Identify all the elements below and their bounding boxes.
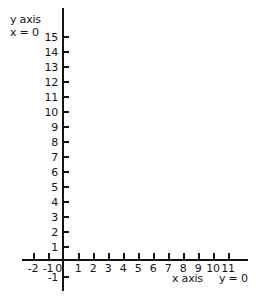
y-axis-tick xyxy=(64,156,69,158)
x-axis-label: x axis xyxy=(172,272,203,285)
x-axis-tick-label: 4 xyxy=(120,263,127,274)
y-axis-tick xyxy=(64,276,69,278)
x-axis-tick xyxy=(228,253,230,260)
y-axis-tick xyxy=(64,186,69,188)
x-axis-tick xyxy=(213,253,215,260)
y-axis-tick-label: 15 xyxy=(45,32,62,43)
x-axis-tick xyxy=(138,253,140,260)
y-axis-tick-label: 8 xyxy=(51,137,62,148)
y-axis-tick-label: 11 xyxy=(45,92,62,103)
y-axis-tick xyxy=(64,141,69,143)
x-axis-tick xyxy=(33,253,35,260)
y-axis-tick xyxy=(64,66,69,68)
y-axis-tick xyxy=(64,96,69,98)
y-axis-tick xyxy=(64,171,69,173)
y-axis-tick xyxy=(64,81,69,83)
x-axis-tick xyxy=(183,253,185,260)
x-axis-tick xyxy=(93,253,95,260)
x-axis-tick-label: 3 xyxy=(105,263,112,274)
y-axis-label: y axis xyxy=(10,13,41,26)
x-axis-tick-label: -2 xyxy=(28,263,38,274)
y-axis-equation-label: x = 0 xyxy=(10,26,39,39)
coordinate-plane-figure: 151413121110987654321-1 -2-1012345678910… xyxy=(0,0,258,307)
x-axis-tick xyxy=(168,253,170,260)
x-axis-tick-label: -1 xyxy=(43,263,53,274)
y-axis-tick-label: 9 xyxy=(51,122,62,133)
y-axis-tick-label: 3 xyxy=(51,212,62,223)
x-axis-tick xyxy=(153,253,155,260)
x-axis-tick xyxy=(198,253,200,260)
y-axis-tick xyxy=(64,231,69,233)
x-axis-tick-label: 0 xyxy=(55,263,63,274)
y-axis-tick xyxy=(64,36,69,38)
x-axis-tick-label: 7 xyxy=(165,263,172,274)
y-axis-tick-label: 14 xyxy=(45,47,62,58)
y-axis-tick-label: 13 xyxy=(45,62,62,73)
y-axis-tick-label: 12 xyxy=(45,77,62,88)
y-axis-tick-label: 10 xyxy=(45,107,62,118)
x-axis-tick-label: 10 xyxy=(206,263,219,274)
y-axis-tick xyxy=(64,246,69,248)
y-axis-tick xyxy=(64,126,69,128)
y-axis-tick xyxy=(64,201,69,203)
y-axis-tick-label: 2 xyxy=(51,227,62,238)
x-axis-equation-label: y = 0 xyxy=(219,272,248,285)
y-axis-tick-label: 5 xyxy=(51,182,62,193)
y-axis-tick-label: 7 xyxy=(51,152,62,163)
x-axis-tick-label: 5 xyxy=(135,263,142,274)
y-axis-tick xyxy=(64,111,69,113)
y-axis-tick-label: 4 xyxy=(51,197,62,208)
y-axis-tick-label: 1 xyxy=(51,242,62,253)
y-axis-tick xyxy=(64,216,69,218)
x-axis-tick-label: 1 xyxy=(75,263,82,274)
y-axis-tick xyxy=(64,51,69,53)
x-axis-tick-label: 2 xyxy=(90,263,97,274)
y-axis-tick-label: 6 xyxy=(51,167,62,178)
x-axis-tick xyxy=(48,253,50,260)
x-axis-tick-label: 6 xyxy=(150,263,157,274)
x-axis-tick xyxy=(108,253,110,260)
x-axis-tick xyxy=(123,253,125,260)
x-axis-tick xyxy=(78,253,80,260)
